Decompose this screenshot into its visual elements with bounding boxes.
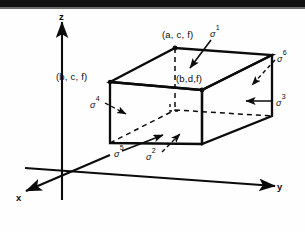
vertex-label-top-front-inner: (b,d,f) — [176, 74, 202, 84]
face-label-sigma-2: σ2 — [146, 150, 156, 162]
sigma-index: 1 — [216, 24, 220, 31]
sigma-glyph: σ — [90, 100, 96, 110]
sigma-glyph: σ — [210, 29, 216, 39]
box-visible-edges — [110, 48, 272, 144]
figure-3d-box-diagram: (a, c, f) (b, c, f) (b,d,f) z y x σ1 σ2 … — [0, 0, 305, 232]
sigma-index: 4 — [96, 95, 100, 102]
face-label-sigma-3: σ3 — [276, 96, 286, 108]
face-label-sigma-1: σ1 — [210, 27, 220, 39]
face-label-sigma-4: σ4 — [90, 98, 100, 110]
vertex-label-top-back-left: (a, c, f) — [162, 30, 193, 40]
axis-label-y: y — [277, 182, 282, 192]
sigma-index: 6 — [283, 49, 287, 56]
sigma-index: 5 — [120, 144, 124, 151]
diagram-canvas — [0, 0, 305, 232]
sigma-glyph: σ — [276, 98, 282, 108]
axis-label-x: x — [16, 193, 21, 203]
sigma-glyph: σ — [277, 54, 283, 64]
vertex-label-top-front-left: (b, c, f) — [56, 72, 87, 82]
axis-label-z: z — [59, 12, 64, 22]
sigma-index: 3 — [282, 93, 286, 100]
sigma-4-arrow — [105, 103, 126, 114]
sigma-1-arrow — [190, 40, 211, 68]
sigma-glyph: σ — [114, 149, 120, 159]
face-label-sigma-5: σ5 — [114, 147, 124, 159]
box-hidden-edges — [110, 48, 272, 143]
sigma-glyph: σ — [146, 152, 152, 162]
face-label-sigma-6: σ6 — [277, 52, 287, 64]
sigma-index: 2 — [152, 147, 156, 154]
